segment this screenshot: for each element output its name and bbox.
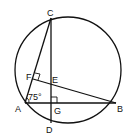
- label-e: E: [52, 75, 58, 85]
- label-c: C: [47, 8, 54, 18]
- label-b: B: [117, 104, 123, 114]
- label-g: G: [54, 106, 61, 116]
- geometry-diagram: 75° C A B D G E F: [0, 0, 135, 138]
- label-a: A: [15, 104, 21, 114]
- label-d: D: [46, 125, 53, 135]
- right-angle-marker-g: [51, 97, 57, 103]
- segment-ca: [25, 18, 51, 103]
- label-f: F: [26, 72, 32, 82]
- angle-label: 75°: [28, 92, 42, 102]
- circle: [15, 17, 121, 123]
- segment-fb: [33, 79, 116, 103]
- right-angle-marker-f: [35, 73, 40, 80]
